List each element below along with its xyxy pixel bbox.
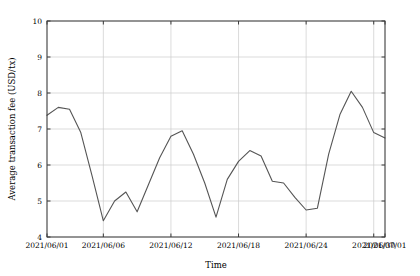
y-tick-label: 5	[37, 197, 42, 206]
x-tick-label: 2021/06/18	[217, 241, 260, 250]
line-chart: 45678910 2021/06/012021/06/062021/06/122…	[0, 0, 420, 276]
chart-background	[0, 0, 420, 276]
x-tick-label: 2021/06/01	[25, 241, 68, 250]
x-tick-label: 2021/06/12	[149, 241, 192, 250]
y-tick-label: 7	[37, 125, 42, 134]
x-axis-title: Time	[205, 260, 226, 270]
y-tick-label: 6	[37, 161, 42, 170]
y-tick-label: 8	[37, 89, 42, 98]
y-tick-label: 9	[37, 53, 42, 62]
y-axis-title: Average transaction fee (USD/tx)	[7, 58, 17, 202]
y-tick-label: 10	[32, 17, 42, 26]
x-tick-label: 2021/07/01	[363, 241, 406, 250]
x-tick-label: 2021/06/24	[285, 241, 328, 250]
chart-figure: 45678910 2021/06/012021/06/062021/06/122…	[0, 0, 420, 276]
x-tick-label: 2021/06/06	[82, 241, 125, 250]
